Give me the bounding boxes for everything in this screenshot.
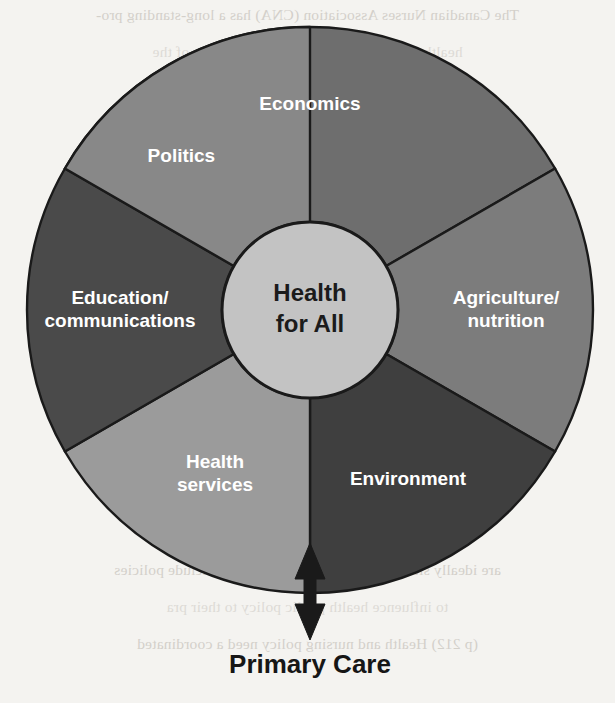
center-hub-line2: for All: [276, 310, 344, 337]
wheel-diagram: EconomicsAgriculture/nutritionEnvironmen…: [0, 0, 615, 703]
segment-label-education-communications: Education/: [71, 287, 169, 308]
segment-label-economics: Economics: [259, 93, 360, 114]
center-hub-line1: Health: [273, 279, 346, 306]
segment-label-education-communications: communications: [45, 310, 196, 331]
segment-label-agriculture-nutrition: nutrition: [467, 310, 544, 331]
segment-label-health-services: services: [177, 474, 253, 495]
segment-label-environment: Environment: [350, 468, 467, 489]
primary-care-caption: Primary Care: [229, 649, 391, 679]
health-for-all-wheel-figure: EconomicsAgriculture/nutritionEnvironmen…: [0, 0, 615, 703]
segment-label-politics: Politics: [148, 145, 216, 166]
segment-label-health-services: Health: [186, 451, 244, 472]
segment-label-agriculture-nutrition: Agriculture/: [453, 287, 560, 308]
center-hub: Health for All: [222, 222, 398, 398]
